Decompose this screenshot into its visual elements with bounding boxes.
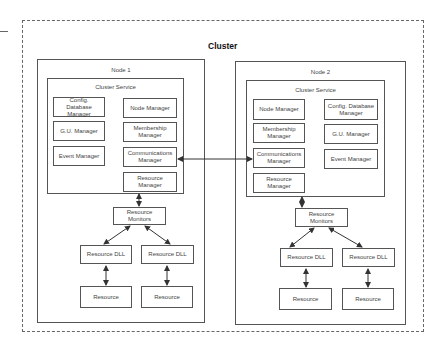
connector-arrows <box>0 0 444 346</box>
node-1-monitors-dll-left-arrow <box>104 226 130 244</box>
node-1-monitors-dll-right-arrow <box>145 226 170 244</box>
node-2-monitors-dll-right-arrow <box>329 228 362 247</box>
node-2-monitors-dll-left-arrow <box>290 228 314 247</box>
